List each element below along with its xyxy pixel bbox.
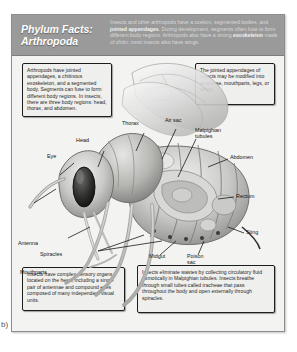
- label-sting: Sting: [246, 229, 258, 235]
- poster-header-description: Insects and other arthropods have a coel…: [108, 15, 284, 55]
- label-antenna: Antenna: [18, 240, 38, 246]
- poster-title: Phylum Facts: Arthropoda: [12, 15, 108, 55]
- label-thorax: Thorax: [122, 120, 139, 126]
- label-eye: Eye: [47, 153, 56, 159]
- poster-header: Phylum Facts: Arthropoda Insects and oth…: [12, 15, 284, 56]
- label-spiracles: Spiracles: [40, 251, 62, 257]
- label-air-sac: Air sac: [165, 117, 181, 123]
- header-text-pre: Insects and other arthropods have a coel…: [110, 19, 268, 25]
- label-abdomen: Abdomen: [230, 154, 253, 160]
- label-mouthparts: Mouthparts: [20, 269, 47, 275]
- head-group: [59, 151, 114, 218]
- poster-title-line2: Arthropoda: [21, 35, 108, 48]
- figure-marker: b): [1, 320, 8, 329]
- poster-title-line1: Phylum Facts:: [21, 23, 108, 36]
- label-malpighian-tubules: Malpighian tubules: [195, 127, 229, 139]
- label-poison-sac: Poison sac: [187, 253, 209, 265]
- label-midgut: Midgut: [149, 253, 165, 259]
- label-head: Head: [76, 137, 89, 143]
- header-term-jointed-appendages: jointed appendages: [110, 26, 159, 32]
- header-term-exoskeleton: exoskeleton: [233, 32, 263, 38]
- honeybee-anatomy-illustration: Antenna Eye Head Thorax Mouthparts Air s…: [12, 55, 284, 331]
- label-rectum: Rectum: [236, 193, 255, 199]
- phylum-facts-poster: Phylum Facts: Arthropoda Insects and oth…: [11, 14, 285, 332]
